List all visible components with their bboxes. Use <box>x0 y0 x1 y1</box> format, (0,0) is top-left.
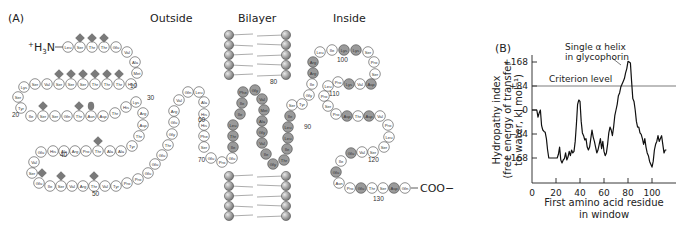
svg-text:Gly: Gly <box>252 88 259 93</box>
y-axis-label-line1: Hydropathy index <box>491 75 502 164</box>
svg-text:Thr: Thr <box>112 111 119 116</box>
svg-text:Ala: Ala <box>259 119 266 124</box>
lipid-head <box>281 181 290 190</box>
svg-text:Ser: Ser <box>380 186 387 191</box>
svg-text:Lys: Lys <box>133 100 139 105</box>
oligosaccharide-marker <box>89 171 99 181</box>
residue: Thr <box>87 42 98 53</box>
svg-text:Leu: Leu <box>65 45 73 50</box>
residue: Val <box>375 111 386 122</box>
svg-text:His: His <box>201 123 207 128</box>
residue-number: 80 <box>270 78 278 85</box>
lipid-head <box>224 201 233 210</box>
svg-text:Arg: Arg <box>171 109 178 114</box>
lipid-head <box>281 40 290 49</box>
amino-acid-chain: LeuSerThrThrGluValAlaMetHisThrThrThrSerS… <box>13 42 411 194</box>
svg-text:Ile: Ile <box>264 152 269 157</box>
lipid-bilayer-top <box>224 30 290 79</box>
svg-text:Ser: Ser <box>372 72 379 77</box>
residue: Ile <box>282 144 293 155</box>
svg-text:Val: Val <box>259 141 265 146</box>
svg-text:Glu: Glu <box>159 153 166 158</box>
svg-text:Glu: Glu <box>333 170 340 175</box>
residue: Gln <box>183 87 194 98</box>
svg-text:Thr: Thr <box>281 158 288 163</box>
residue: Arg <box>138 108 149 119</box>
residue: Ile <box>285 111 296 122</box>
residue: Glu <box>111 42 122 53</box>
svg-text:Pro: Pro <box>135 177 142 182</box>
svg-text:Ile: Ile <box>310 82 315 87</box>
residue: Ile <box>261 149 272 160</box>
svg-text:Pro: Pro <box>124 181 131 186</box>
oligosaccharide-marker <box>78 69 88 79</box>
svg-text:Lys: Lys <box>353 48 359 53</box>
oligosaccharide-marker <box>87 33 97 43</box>
residue: Ser <box>30 79 41 90</box>
residue: Ser <box>75 42 86 53</box>
oligosaccharide-marker <box>99 33 109 43</box>
residue: Val <box>42 79 53 90</box>
x-axis-label-line2: in window <box>579 209 629 220</box>
residue: Glu <box>34 178 45 189</box>
residue: Leu <box>228 120 239 131</box>
svg-text:Ser: Ser <box>201 145 208 150</box>
svg-text:Pro: Pro <box>385 123 392 128</box>
residue: Leu <box>194 87 205 98</box>
lipid-head <box>224 171 233 180</box>
residue: Ala <box>116 146 127 157</box>
residue: Val <box>357 147 368 158</box>
svg-text:Arg: Arg <box>140 111 147 116</box>
svg-text:Glu: Glu <box>358 186 365 191</box>
svg-text:Pro: Pro <box>371 60 378 65</box>
svg-text:Ser: Ser <box>80 82 87 87</box>
residue: Ile <box>336 156 347 167</box>
residue: Thr <box>367 183 378 194</box>
residue: Lys <box>19 82 30 93</box>
residue-number: 40 <box>60 151 68 158</box>
svg-text:Thr: Thr <box>165 143 172 148</box>
residue: Ser <box>370 69 381 80</box>
svg-text:Ser: Ser <box>68 82 75 87</box>
svg-text:Glu: Glu <box>36 181 43 186</box>
region-inside-label: Inside <box>333 12 366 25</box>
residue: Glu <box>346 148 357 159</box>
svg-text:Val: Val <box>377 114 383 119</box>
residue: Ile <box>45 181 56 192</box>
residue: Pro <box>383 120 394 131</box>
residue: Val <box>29 157 40 168</box>
residue: Ser <box>66 79 77 90</box>
helix-annotation-line1: Single α helix <box>565 42 627 52</box>
residue-number: 70 <box>198 156 206 163</box>
svg-text:Lys: Lys <box>21 85 27 90</box>
svg-text:Arg: Arg <box>80 184 87 189</box>
residue: Leu <box>384 132 395 143</box>
residue: Gly <box>250 85 261 96</box>
residue: Val <box>100 181 111 192</box>
lipid-head <box>224 30 233 39</box>
svg-text:Pro: Pro <box>347 186 354 191</box>
svg-text:Leu: Leu <box>285 125 293 130</box>
residue: Asn <box>86 111 97 122</box>
residue: Ser <box>54 79 65 90</box>
lipid-bilayer-bottom <box>224 171 290 220</box>
lipid-tail <box>257 64 284 65</box>
svg-text:Tyr: Tyr <box>129 144 135 149</box>
svg-text:Leu: Leu <box>230 123 238 128</box>
residue: Asp <box>389 183 400 194</box>
residue-number: 130 <box>373 195 384 202</box>
residue: Asp <box>98 111 109 122</box>
residue: Glu <box>157 150 168 161</box>
svg-text:Gly: Gly <box>169 132 176 137</box>
residue: Thr <box>114 79 125 90</box>
residue: Ile <box>228 142 239 153</box>
lipid-tail <box>257 176 284 177</box>
residue: Thr <box>134 131 145 142</box>
svg-text:Ile: Ile <box>231 145 236 150</box>
lipid-head <box>224 50 233 59</box>
oligosaccharide-marker <box>114 69 124 79</box>
svg-text:Glu: Glu <box>152 162 159 167</box>
residue: Arg <box>70 146 81 157</box>
svg-text:Ile: Ile <box>339 159 344 164</box>
residue: Ile <box>327 45 338 56</box>
